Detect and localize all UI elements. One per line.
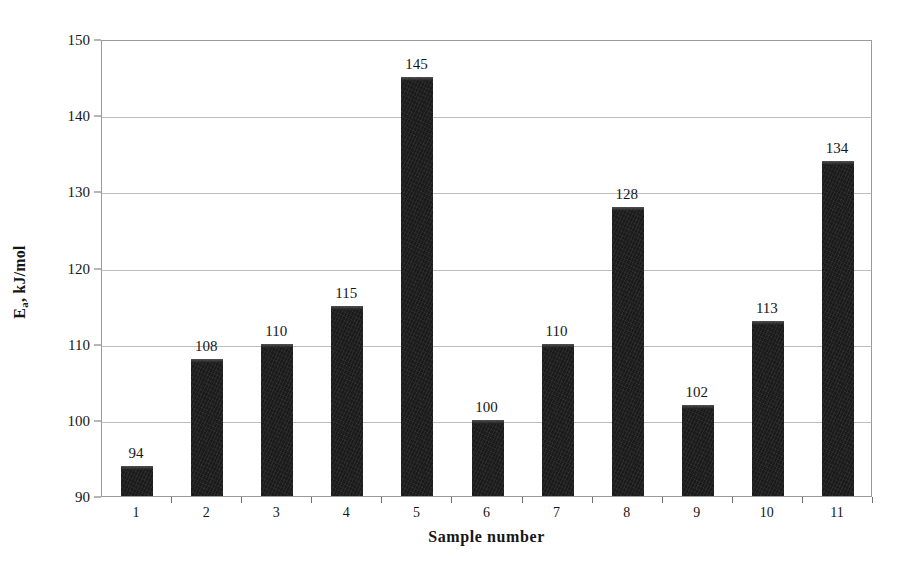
bar (401, 77, 433, 496)
x-tick-mark (732, 497, 733, 503)
x-tick-mark (592, 497, 593, 503)
y-tick-label: 130 (34, 184, 90, 201)
x-tick-mark (522, 497, 523, 503)
bar-value-label: 110 (246, 323, 306, 340)
bar (472, 420, 504, 496)
bar (752, 321, 784, 496)
y-tick-mark (94, 116, 101, 117)
bar-top-edge (121, 466, 153, 470)
gridline (102, 193, 871, 194)
y-axis-title-subscript: a (18, 302, 30, 308)
y-axis-title-base: E (11, 308, 28, 319)
x-tick-mark (241, 497, 242, 503)
y-tick-mark (94, 40, 101, 41)
x-axis-title: Sample number (101, 528, 872, 546)
bar-value-label: 113 (737, 300, 797, 317)
bar-value-label: 134 (807, 140, 867, 157)
bar-value-label: 100 (457, 399, 517, 416)
bar-top-edge (191, 359, 223, 363)
bar (542, 344, 574, 496)
y-tick-label: 100 (34, 412, 90, 429)
x-tick-mark (171, 497, 172, 503)
x-tick-mark (802, 497, 803, 503)
x-tick-label: 11 (807, 505, 867, 521)
x-tick-mark (662, 497, 663, 503)
bar (682, 405, 714, 496)
y-tick-label: 120 (34, 260, 90, 277)
y-tick-label: 90 (34, 489, 90, 506)
x-tick-label: 10 (737, 505, 797, 521)
bar-value-label: 115 (316, 285, 376, 302)
bar-top-edge (682, 405, 714, 409)
bar-value-label: 102 (667, 384, 727, 401)
y-tick-label: 150 (34, 32, 90, 49)
y-tick-mark (94, 420, 101, 421)
bar (191, 359, 223, 496)
x-tick-label: 8 (597, 505, 657, 521)
bar-top-edge (401, 77, 433, 81)
y-tick-mark (94, 344, 101, 345)
bar-top-edge (261, 344, 293, 348)
bar-value-label: 94 (106, 445, 166, 462)
x-tick-label: 4 (316, 505, 376, 521)
x-tick-label: 9 (667, 505, 727, 521)
bar-top-edge (752, 321, 784, 325)
bar-value-label: 110 (527, 323, 587, 340)
bar-top-edge (472, 420, 504, 424)
x-tick-label: 5 (386, 505, 446, 521)
x-tick-mark (311, 497, 312, 503)
bar-top-edge (822, 161, 854, 165)
y-tick-mark (94, 497, 101, 498)
y-tick-mark (94, 192, 101, 193)
x-tick-label: 1 (106, 505, 166, 521)
x-tick-mark (872, 497, 873, 503)
bar-value-label: 108 (176, 338, 236, 355)
y-axis-title-text: Ea, kJ/mol (11, 245, 29, 318)
x-tick-label: 6 (457, 505, 517, 521)
bar-value-label: 145 (386, 56, 446, 73)
y-tick-mark (94, 268, 101, 269)
x-tick-label: 7 (527, 505, 587, 521)
bar-top-edge (612, 207, 644, 211)
x-tick-label: 2 (176, 505, 236, 521)
bar (331, 306, 363, 496)
y-tick-label: 110 (34, 336, 90, 353)
plot-area (101, 40, 872, 497)
bar-chart-figure: Ea, kJ/mol 90100110120130140150 94108110… (0, 0, 903, 564)
y-tick-label: 140 (34, 108, 90, 125)
x-tick-mark (381, 497, 382, 503)
gridline (102, 117, 871, 118)
y-axis-title-units: , kJ/mol (11, 245, 28, 302)
x-tick-mark (451, 497, 452, 503)
bar-top-edge (542, 344, 574, 348)
bar (822, 161, 854, 496)
bar-top-edge (331, 306, 363, 310)
bar (121, 466, 153, 496)
bar (261, 344, 293, 496)
gridline (102, 270, 871, 271)
x-tick-label: 3 (246, 505, 306, 521)
y-axis-title: Ea, kJ/mol (0, 0, 40, 564)
bar-value-label: 128 (597, 186, 657, 203)
bar (612, 207, 644, 496)
